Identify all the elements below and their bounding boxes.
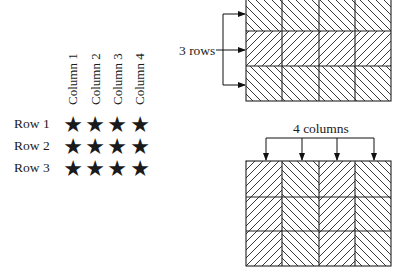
rows-bracket-arrows bbox=[216, 14, 245, 85]
columns-bracket-arrows bbox=[266, 138, 374, 160]
rows-grid bbox=[246, 0, 391, 101]
grid-diagrams bbox=[0, 0, 412, 272]
columns-grid bbox=[246, 161, 391, 266]
